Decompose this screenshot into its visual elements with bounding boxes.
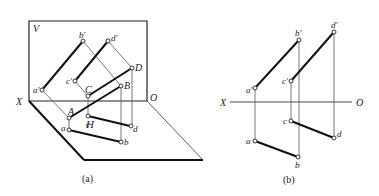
h-plane-left-edge [29,101,84,160]
line-c-prime-d-prime [75,41,108,81]
point-a-prime-b [253,86,257,90]
caption-a: (a) [82,173,93,185]
point-B [119,84,123,88]
label-c-prime-a: c' [66,76,73,86]
line-ab [69,130,121,142]
point-d-b [332,136,336,140]
label-o-b: O [356,97,363,108]
label-b-prime-b: b' [295,28,303,38]
point-d-prime-b [332,30,336,34]
label-d-prime-b: d' [331,20,339,30]
label-A: A [67,106,75,117]
point-d-prime [106,39,110,43]
figure-a: V H X O a' b' c' d' A B C D a b c d (a) [15,21,203,185]
h-plane-right-edge [147,101,203,160]
point-c-b [289,119,293,123]
label-x-axis-a: X [15,96,23,107]
label-c-prime-b: c' [282,76,289,86]
label-c-b: c [283,116,287,126]
point-b [119,140,123,144]
line-ab-b [255,141,298,157]
label-B: B [124,80,130,91]
label-b-b: b [295,160,300,170]
label-C: C [85,84,92,95]
projection-diagram: V H X O a' b' c' d' A B C D a b c d (a) [0,0,379,196]
label-b-a: b [124,137,129,147]
label-a-b: a [246,136,251,146]
label-o-a: O [150,92,157,103]
label-d-prime-a: d' [111,33,119,43]
label-b-prime-a: b' [79,30,87,40]
label-v-plane: V [33,23,41,34]
label-x-axis-b: X [219,97,227,108]
label-d-a: d [133,124,138,134]
caption-b: (b) [283,174,295,186]
label-c-a: c [86,119,90,129]
line-cd [88,116,130,126]
projector-d-prime-D [108,41,132,68]
point-c-prime [73,79,77,83]
point-a-b [253,139,257,143]
figure-b: X O a' b' c' d' a b c d (b) [219,20,363,186]
label-a-prime-a: a' [33,85,41,95]
point-c-prime-b [289,79,293,83]
projector-a-prime-A [42,90,69,118]
point-b-prime-b [297,38,301,42]
label-a-a: a [61,123,66,133]
line-cd-b [291,121,334,138]
point-b-b [296,155,300,159]
label-d-b: d [337,129,342,139]
point-a-prime [40,88,44,92]
point-a [67,128,71,132]
label-D: D [134,62,143,73]
point-D [130,66,134,70]
label-a-prime-b: a' [246,85,254,95]
